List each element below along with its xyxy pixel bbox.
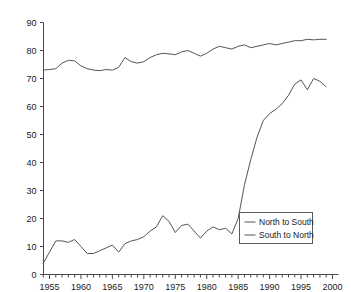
y-tick-label: 10 (26, 242, 36, 252)
x-tick-label: 1975 (165, 282, 185, 292)
y-tick-label: 50 (26, 130, 36, 140)
series-line-north-to-south (43, 39, 326, 70)
chart-canvas: 0102030405060708090 19551960196519701975… (0, 0, 351, 292)
y-tick-label: 70 (26, 74, 36, 84)
x-tick-label: 1995 (291, 282, 311, 292)
y-tick-label: 80 (26, 46, 36, 56)
y-tick-label: 30 (26, 186, 36, 196)
y-axis: 0102030405060708090 (26, 18, 43, 280)
x-tick-label: 1960 (71, 282, 91, 292)
x-tick-label: 1990 (260, 282, 280, 292)
x-tick-label: 1980 (197, 282, 217, 292)
x-axis: 1955196019651970197519801985199019952000 (39, 275, 342, 292)
legend-label: South to North (259, 230, 314, 240)
y-tick-label: 20 (26, 214, 36, 224)
x-tick-label: 1985 (228, 282, 248, 292)
x-tick-label: 1970 (134, 282, 154, 292)
legend-label: North to South (259, 217, 314, 227)
y-tick-label: 0 (31, 270, 36, 280)
x-tick-label: 2000 (322, 282, 342, 292)
chart-legend: North to SouthSouth to North (240, 213, 315, 244)
line-chart: 0102030405060708090 19551960196519701975… (0, 0, 351, 292)
x-tick-label: 1965 (102, 282, 122, 292)
x-tick-label: 1955 (39, 282, 59, 292)
y-tick-label: 60 (26, 102, 36, 112)
y-tick-label: 40 (26, 158, 36, 168)
y-tick-label: 90 (26, 18, 36, 28)
